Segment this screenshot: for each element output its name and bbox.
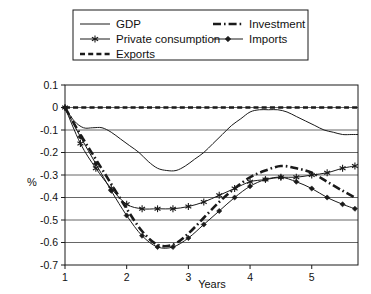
chart-legend: GDPPrivate consumptionExportsInvestmentI… (73, 10, 308, 60)
y-tick-label: -0.5 (40, 214, 58, 226)
y-axis-title: % (27, 176, 37, 188)
y-tick-label: 0.1 (43, 79, 58, 91)
x-tick-label: 1 (62, 271, 68, 283)
chart-svg: GDPPrivate consumptionExportsInvestmentI… (0, 0, 371, 294)
y-tick-label: -0.6 (40, 236, 58, 248)
y-tick-label: -0.1 (40, 124, 58, 136)
y-tick-label: -0.2 (40, 146, 58, 158)
x-tick-label: 5 (309, 271, 315, 283)
y-tick-label: -0.7 (40, 259, 58, 271)
legend-label: Private consumption (116, 33, 220, 45)
legend-label: Exports (116, 48, 155, 60)
chart-figure: GDPPrivate consumptionExportsInvestmentI… (0, 0, 371, 294)
x-axis-title: Years (198, 278, 226, 290)
y-tick-label: 0 (52, 101, 58, 113)
y-tick-label: -0.3 (40, 169, 58, 181)
y-tick-label: -0.4 (40, 191, 58, 203)
legend-label: GDP (116, 18, 141, 30)
legend-label: Imports (249, 33, 288, 45)
x-tick-label: 4 (247, 271, 253, 283)
x-tick-label: 2 (124, 271, 130, 283)
x-tick-label: 3 (185, 271, 191, 283)
legend-label: Investment (249, 18, 306, 30)
